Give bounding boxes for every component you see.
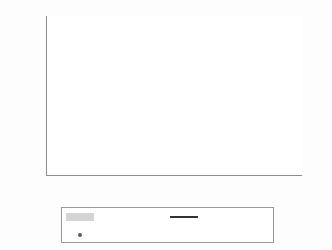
legend-item-ci <box>62 208 166 226</box>
chart-figure <box>0 0 332 250</box>
legend-item-y <box>166 226 275 244</box>
plot-svg <box>47 16 302 175</box>
plot-canvas <box>47 16 302 175</box>
chart-legend <box>61 207 274 243</box>
legend-item-mileage <box>62 226 166 244</box>
plot-area <box>46 16 302 176</box>
legend-key-blank-icon <box>166 231 202 239</box>
legend-item-fitted <box>166 208 275 226</box>
legend-key-dot-icon <box>62 233 98 237</box>
legend-key-band-icon <box>62 213 98 221</box>
legend-key-line-icon <box>166 216 202 218</box>
